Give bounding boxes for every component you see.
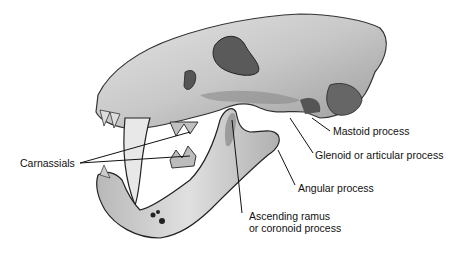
label-mastoid-process: Mastoid process — [333, 125, 409, 137]
label-ascending-ramus: Ascending ramus — [249, 210, 330, 222]
label-carnassials: Carnassials — [20, 157, 75, 169]
label-coronoid-process: or coronoid process — [249, 222, 341, 234]
label-angular-process: Angular process — [298, 182, 374, 194]
label-glenoid-process: Glenoid or articular process — [315, 149, 443, 161]
